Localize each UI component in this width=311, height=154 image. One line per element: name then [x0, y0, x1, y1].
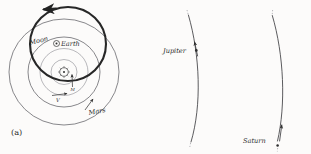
jupiter-arc-bottom-tip [190, 143, 191, 147]
orbital-diagram-svg: Earth Moon Mars V M (a) [0, 0, 311, 154]
sun-symbol [58, 66, 70, 78]
moon-orbit-direction-arrow [44, 9, 56, 10]
jupiter-arc-top-tip [187, 10, 188, 15]
figure-canvas: Earth Moon Mars V M (a) [0, 0, 311, 154]
saturn-position-dot [276, 144, 279, 147]
earth-label: Earth [60, 40, 80, 48]
panel-label: (a) [11, 127, 22, 137]
panel-a-group: Earth Moon Mars V M (a) [9, 7, 119, 137]
jupiter-position-dot [195, 49, 198, 52]
saturn-arc [272, 16, 282, 142]
saturn-label: Saturn [243, 137, 266, 145]
velocity-label: V [56, 97, 61, 103]
mars-label: Mars [87, 106, 107, 117]
saturn-group: Saturn [243, 10, 283, 152]
jupiter-label: Jupiter [161, 47, 187, 55]
jupiter-arc [188, 15, 198, 142]
earth-symbol [54, 41, 60, 47]
jupiter-group: Jupiter [161, 10, 198, 147]
moon-vector-label: M [70, 87, 76, 92]
